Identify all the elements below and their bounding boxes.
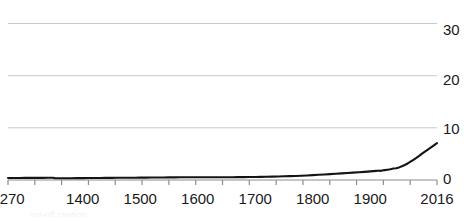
x-tick-label-2016: 2016 — [420, 190, 453, 207]
cropped-caption-artifact: cut-off caption — [30, 210, 86, 217]
gridlines — [8, 24, 437, 128]
x-tick-label-1900: 1900 — [354, 190, 387, 207]
y-tick-label-20: 20 — [443, 71, 460, 88]
y-tick-label-30: 30 — [443, 21, 460, 38]
y-tick-label-10: 10 — [443, 120, 460, 137]
y-tick-label-0: 0 — [443, 170, 451, 187]
x-tick-label-1600: 1600 — [181, 190, 214, 207]
x-tick-label-1400: 1400 — [66, 190, 99, 207]
x-tick-label-1700: 1700 — [239, 190, 272, 207]
x-tick-label-1270: 1270 — [0, 190, 25, 207]
chart-plot-area — [0, 0, 471, 221]
x-axis-ticks — [8, 180, 437, 185]
x-tick-label-1500: 1500 — [124, 190, 157, 207]
x-tick-label-1800: 1800 — [296, 190, 329, 207]
population-line-chart: 0102030 12701400150016001700180019002016… — [0, 0, 471, 221]
population-curve — [8, 143, 437, 178]
